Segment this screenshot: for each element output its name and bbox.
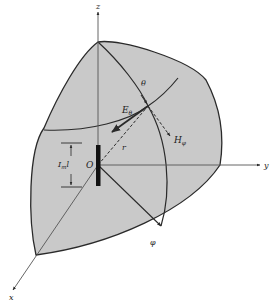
y-axis-label: y <box>263 161 269 170</box>
theta-label: θ <box>141 79 146 88</box>
dipole-element <box>96 145 101 186</box>
sphere-octant-surface <box>31 42 222 255</box>
dipole-spherical-coordinates-diagram: z y x O θ Eθ Hφ r φ Iml <box>0 0 274 301</box>
x-axis-label: x <box>9 293 14 301</box>
z-axis-label: z <box>95 2 101 11</box>
origin-label: O <box>86 160 94 170</box>
phi-label: φ <box>150 238 156 247</box>
